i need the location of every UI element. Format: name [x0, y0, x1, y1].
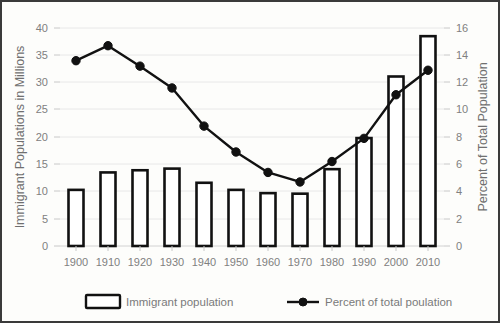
legend-label-percent-of-total-population: Percent of total poulation: [325, 296, 452, 308]
bar-1940: [197, 183, 212, 246]
data-point-1930: [168, 84, 176, 92]
x-axis-tick-labels: 1900191019201930194019501960197019801990…: [64, 246, 440, 268]
bar-1920: [133, 170, 148, 246]
bar-1950: [229, 190, 244, 246]
x-tick-label-1990: 1990: [352, 256, 376, 268]
right-tick-label-6: 6: [456, 158, 462, 170]
data-point-1980: [328, 157, 336, 165]
data-point-1900: [72, 57, 80, 65]
legend-label-immigrant-population: Immigrant population: [126, 296, 233, 308]
x-tick-label-1910: 1910: [96, 256, 120, 268]
x-tick-label-1950: 1950: [224, 256, 248, 268]
left-tick-label-15: 15: [36, 158, 48, 170]
right-tick-label-0: 0: [456, 240, 462, 252]
right-axis-title: Percent of Total Population: [476, 62, 490, 211]
right-tick-label-16: 16: [456, 22, 468, 34]
right-tick-label-2: 2: [456, 213, 462, 225]
percent-line-path: [76, 46, 428, 182]
chart-plot-area: 40 35 30 25 20 15 10 5 0 Immigrant Popul…: [2, 2, 500, 323]
x-tick-label-1980: 1980: [320, 256, 344, 268]
gridlines: [60, 28, 444, 219]
right-tick-label-4: 4: [456, 185, 462, 197]
left-tick-label-0: 0: [42, 240, 48, 252]
right-axis: 16 14 12 10 8 6 4 2 0 Percent of Total P…: [444, 22, 490, 252]
bar-1930: [165, 169, 180, 246]
data-point-1990: [360, 134, 368, 142]
x-tick-label-2000: 2000: [384, 256, 408, 268]
x-tick-label-1960: 1960: [256, 256, 280, 268]
right-tick-label-8: 8: [456, 131, 462, 143]
data-point-1940: [200, 122, 208, 130]
left-tick-label-20: 20: [36, 131, 48, 143]
left-tick-label-30: 30: [36, 76, 48, 88]
bar-1970: [293, 194, 308, 246]
left-axis-title: Immigrant Populations in Millions: [13, 46, 27, 229]
right-tick-label-10: 10: [456, 103, 468, 115]
bar-1910: [101, 172, 116, 246]
bar-1960: [261, 193, 276, 246]
data-point-1970: [296, 178, 304, 186]
bar-series: [69, 36, 436, 246]
x-tick-label-1930: 1930: [160, 256, 184, 268]
x-tick-label-1970: 1970: [288, 256, 312, 268]
left-tick-label-40: 40: [36, 22, 48, 34]
left-tick-label-10: 10: [36, 185, 48, 197]
x-tick-label-1920: 1920: [128, 256, 152, 268]
x-tick-label-1940: 1940: [192, 256, 216, 268]
x-tick-label-1900: 1900: [64, 256, 88, 268]
data-point-2000: [392, 91, 400, 99]
bar-1980: [325, 169, 340, 246]
data-point-1910: [104, 42, 112, 50]
data-point-1960: [264, 168, 272, 176]
left-axis: 40 35 30 25 20 15 10 5 0 Immigrant Popul…: [13, 22, 60, 252]
right-tick-label-12: 12: [456, 76, 468, 88]
bar-1900: [69, 190, 84, 246]
bar-1990: [357, 138, 372, 246]
data-point-1950: [232, 148, 240, 156]
data-point-1920: [136, 62, 144, 70]
data-point-2010: [424, 66, 432, 74]
immigrant-population-chart: 40 35 30 25 20 15 10 5 0 Immigrant Popul…: [2, 2, 500, 323]
left-tick-label-5: 5: [42, 213, 48, 225]
legend-bar-swatch-icon: [86, 295, 120, 308]
left-tick-label-35: 35: [36, 49, 48, 61]
chart-frame: 40 35 30 25 20 15 10 5 0 Immigrant Popul…: [0, 0, 500, 323]
legend: Immigrant population Percent of total po…: [86, 295, 452, 308]
legend-line-dot-icon: [299, 298, 307, 306]
left-tick-label-25: 25: [36, 103, 48, 115]
x-tick-label-2010: 2010: [416, 256, 440, 268]
right-tick-label-14: 14: [456, 49, 468, 61]
